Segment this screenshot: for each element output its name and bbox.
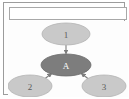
node-3[interactable]: 3 — [82, 75, 126, 97]
header-title-bar[interactable] — [9, 7, 127, 20]
node-1[interactable]: 1 — [42, 23, 90, 45]
node-1-label: 1 — [64, 30, 69, 40]
node-a[interactable]: A — [41, 54, 91, 76]
node-2[interactable]: 2 — [8, 75, 52, 97]
node-a-label: A — [63, 61, 70, 71]
graph-canvas[interactable]: 1 A 2 3 — [8, 21, 128, 97]
screenshot-root: 1 A 2 3 — [0, 0, 129, 99]
node-3-label: 3 — [102, 82, 107, 92]
diagram-panel-frame: 1 A 2 3 — [3, 2, 125, 95]
graph-diagram: 1 A 2 3 — [8, 21, 128, 97]
node-2-label: 2 — [28, 82, 33, 92]
